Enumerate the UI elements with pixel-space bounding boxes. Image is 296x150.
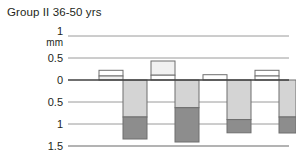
y-axis-unit-label: mm (46, 37, 63, 48)
y-tick-label-0_5: 0.5 (48, 52, 63, 64)
y-axis-labels: 1 mm 0.5 0 0.5 1 1.5 (46, 25, 63, 150)
chart-container: Group II 36-50 yrs 1 mm 0.5 0 0.5 1 1.5 (0, 0, 296, 150)
y-tick-label-neg0_5: 0.5 (48, 96, 63, 108)
y-tick-label-neg1_5: 1.5 (48, 140, 63, 150)
y-tick-label-1mm: 1 (57, 25, 63, 37)
bar-4-positive-upper[interactable] (255, 70, 279, 76)
bar-1-negative-upper[interactable] (123, 80, 147, 117)
bar-3-negative-upper[interactable] (227, 80, 251, 120)
bar-3-negative-lower[interactable] (227, 120, 251, 133)
y-tick-label-0: 0 (57, 74, 63, 86)
bar-2-positive-upper[interactable] (151, 61, 175, 75)
bar-1-positive-upper[interactable] (99, 70, 123, 76)
bar-1-negative-lower[interactable] (123, 117, 147, 139)
y-tick-label-neg1: 1 (57, 118, 63, 130)
chart-plot-area: 1 mm 0.5 0 0.5 1 1.5 (0, 0, 296, 150)
bar-4-negative-lower[interactable] (279, 117, 296, 133)
bar-2-negative-lower[interactable] (175, 108, 199, 142)
bar-4-negative-upper[interactable] (279, 80, 296, 117)
bar-2-negative-upper[interactable] (175, 80, 199, 108)
